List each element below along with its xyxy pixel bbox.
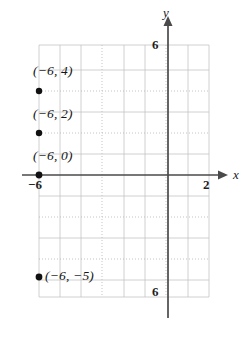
coordinate-plane-figure: (−6, 4) (−6, 2) (−6, 0) (−6, −5) 6 6 −6 …: [0, 0, 248, 338]
tick-label-x-right: 2: [203, 177, 210, 193]
point-label-neg6-0: (−6, 0): [33, 148, 73, 164]
point-label-neg6-neg5: (−6, −5): [45, 268, 94, 284]
plotted-point: [36, 88, 42, 94]
y-axis-label: y: [163, 5, 169, 21]
tick-label-x-left: −6: [28, 177, 42, 193]
point-label-neg6-4: (−6, 4): [33, 63, 73, 79]
x-axis-label: x: [233, 167, 239, 183]
tick-label-y-top: 6: [152, 37, 159, 53]
y-axis: [164, 16, 173, 318]
grid-and-axes: [0, 0, 248, 338]
plotted-point: [36, 274, 43, 281]
point-label-neg6-2: (−6, 2): [33, 106, 73, 122]
tick-label-y-bottom: 6: [152, 284, 159, 300]
plotted-point: [36, 130, 42, 136]
x-axis: [22, 171, 228, 180]
